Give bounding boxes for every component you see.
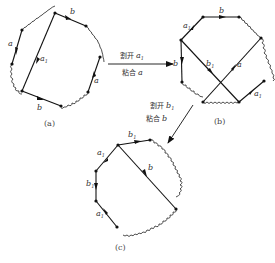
- wavy-boundary-b-bottom: [203, 102, 239, 104]
- wavy-boundary-c-right: [150, 140, 182, 197]
- wavy-boundary-b-left-bottom: [182, 82, 203, 97]
- wavy-boundary-b-top-right: [239, 17, 261, 38]
- label-b-left: b: [173, 59, 178, 68]
- label-a-right: a: [94, 76, 99, 85]
- label-a1-lower-left: a1: [96, 209, 104, 219]
- label-b-diagonal: b: [148, 163, 153, 172]
- label-a-left: a: [8, 39, 13, 48]
- transition-cut-a1-glue-a: 割开a1 粘合a: [108, 51, 173, 77]
- figure-a: a b a1 a b (a): [8, 6, 104, 128]
- transition-cut-b1-glue-b: 割开b1 粘合b: [146, 101, 193, 143]
- label-a1-diagonal: a1: [40, 54, 48, 64]
- arrow-icon: [94, 183, 98, 190]
- surface-cut-paste-diagram: a b a1 a b (a) 割开a1 粘合a: [0, 0, 275, 263]
- arrow-down-left-icon: [168, 105, 193, 143]
- caption-a: (a): [44, 119, 55, 128]
- label-b-top: b: [219, 6, 224, 15]
- figure-c: b1 a1 b1 a1 b (c): [86, 130, 182, 252]
- wavy-boundary-c-bottom: [123, 209, 176, 237]
- label-b-top: b: [70, 7, 75, 16]
- label-b-bottom: b: [37, 103, 42, 112]
- wavy-boundary-b-right: [261, 38, 275, 81]
- caption-c: (c): [115, 243, 126, 252]
- arrow-icon: [103, 158, 108, 163]
- label-a1-upper-left: a1: [183, 21, 191, 31]
- arrow-icon: [180, 57, 184, 64]
- figure-b: a1 b b b1 a a1 (b): [173, 6, 275, 126]
- wavy-boundary-a-top-left: [22, 6, 55, 30]
- label-a-diagonal: a: [237, 60, 242, 69]
- label-b1-top: b1: [128, 130, 136, 140]
- label-b1-diagonal: b1: [206, 59, 214, 69]
- caption-b: (b): [214, 117, 225, 126]
- label-a1-lower-right: a1: [254, 89, 262, 99]
- glue-label-2: 粘合b: [146, 114, 167, 123]
- label-a1-upper-left: a1: [97, 148, 105, 158]
- vertices-a: [10, 11, 101, 107]
- wavy-boundary-a-left: [11, 64, 23, 94]
- wavy-boundary-a-bottom-right: [61, 92, 88, 108]
- cut-label-1: 割开a1: [120, 51, 144, 61]
- edge-a-left: [12, 30, 22, 64]
- arrow-icon: [219, 15, 226, 19]
- label-b1-left: b1: [86, 179, 94, 189]
- glue-label-1: 粘合a: [122, 68, 143, 77]
- cut-label-2: 割开b1: [150, 101, 174, 111]
- edge-a1-diagonal: [22, 13, 55, 91]
- edge-b1-top: [118, 140, 150, 145]
